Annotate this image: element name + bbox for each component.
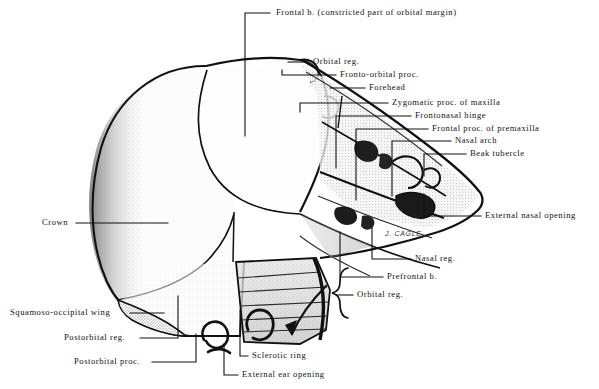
label-beak-tubercle: Beak tubercle bbox=[470, 149, 525, 158]
label-frontal-proc-premax: Frontal proc. of premaxilla bbox=[432, 124, 539, 133]
skull-illustration bbox=[0, 0, 599, 389]
beak-region bbox=[300, 60, 483, 276]
label-prefrontal-b: Prefrontal b. bbox=[387, 272, 437, 281]
label-frontonasal-hinge: Frontonasal hinge bbox=[415, 111, 486, 120]
sclerotic-ring bbox=[236, 258, 330, 344]
label-external-ear: External ear opening bbox=[242, 370, 325, 379]
label-crown: Crown bbox=[42, 218, 68, 227]
label-external-nasal: External nasal opening bbox=[485, 211, 576, 220]
label-sclerotic-ring: Sclerotic ring bbox=[252, 351, 306, 360]
label-fronto-orbital-proc: Fronto-orbital proc. bbox=[340, 70, 419, 79]
artist-signature: J. CAGLE bbox=[385, 230, 422, 237]
label-squamoso-occipital: Squamoso-occipital wing bbox=[10, 308, 110, 317]
label-nasal-arch: Nasal arch bbox=[455, 136, 497, 145]
label-forehead: Forehead bbox=[369, 83, 405, 92]
label-frontal-b: Frontal b. (constricted part of orbital … bbox=[276, 8, 457, 17]
label-zygomatic-proc: Zygomatic proc. of maxilla bbox=[392, 98, 500, 107]
label-postorbital-proc: Postorbital proc. bbox=[74, 357, 140, 366]
label-postorbital-reg: Postorbital reg. bbox=[64, 333, 125, 342]
label-orbital-reg-top: Orbital reg. bbox=[313, 57, 359, 66]
label-nasal-reg: Nasal reg. bbox=[415, 254, 455, 263]
skull-drawing bbox=[76, 13, 483, 375]
label-orbital-reg-bottom: Orbital reg. bbox=[357, 290, 403, 299]
